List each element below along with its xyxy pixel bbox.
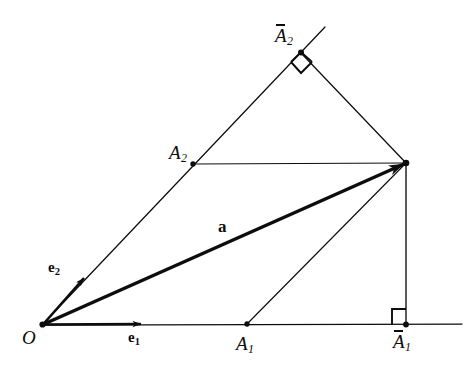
- point-dot-a1: [244, 321, 249, 326]
- point-dot-a2-bar: [298, 50, 304, 56]
- point-dot-origin: [39, 321, 45, 327]
- right-angle-marker-a1-bar: [392, 309, 406, 324]
- right-angle-marker-a2-bar: [291, 62, 312, 73]
- label-point-a1: A1: [236, 334, 254, 355]
- label-origin: O: [22, 328, 36, 347]
- parallel-line-a1-to-apex: [247, 163, 406, 324]
- point-dot-a1-bar: [403, 322, 409, 328]
- axis-e2-line: [42, 27, 325, 325]
- parallel-line-a2-to-apex: [193, 163, 406, 164]
- label-vector-a: a: [218, 218, 227, 235]
- geometry-figure: O e1 e2 a A1 A2 A1 A2: [0, 0, 476, 369]
- label-point-a2-bar: A2: [275, 26, 293, 47]
- unit-vector-e1-arrow: [43, 324, 141, 325]
- point-dot-apex: [403, 160, 410, 167]
- label-basis-vector-e1: e1: [128, 330, 140, 348]
- figure-canvas: [0, 0, 476, 369]
- perpendicular-line-apex-to-a2-bar: [301, 53, 406, 163]
- point-dot-a2: [190, 161, 195, 166]
- label-point-a2: A2: [169, 143, 187, 164]
- unit-vector-e2-arrow: [43, 278, 84, 325]
- label-basis-vector-e2: e2: [48, 260, 60, 278]
- label-point-a1-bar: A1: [393, 332, 411, 353]
- vector-a-arrow: [43, 164, 404, 325]
